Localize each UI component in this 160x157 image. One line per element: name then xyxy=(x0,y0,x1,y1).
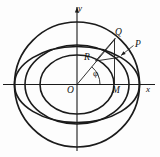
point-q-label: Q xyxy=(115,28,122,38)
point-m-label: M xyxy=(112,86,120,96)
geometric-figure: y x O Q P R M φ xyxy=(0,0,160,157)
point-r-label: R xyxy=(84,53,90,63)
point-p-label: P xyxy=(135,40,141,50)
x-axis-label: x xyxy=(146,85,150,94)
origin-label: O xyxy=(67,86,74,96)
y-axis-label: y xyxy=(78,4,82,13)
diagram-canvas xyxy=(0,0,160,157)
angle-phi-label: φ xyxy=(93,69,98,78)
segment-r-to-q xyxy=(96,39,116,62)
